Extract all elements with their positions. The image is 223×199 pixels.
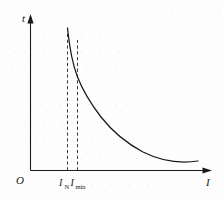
y-axis-arrowhead [27, 14, 33, 24]
inverse-time-characteristic-chart: t I O I N I min [0, 0, 223, 199]
inverse-time-curve [68, 28, 199, 162]
xtick-label-rated-current: I N [58, 177, 70, 190]
x-axis-label: I [205, 176, 211, 188]
xtick-minimum-symbol: I [70, 177, 75, 188]
x-axis-arrowhead [203, 167, 213, 173]
xtick-rated-subscript: N [65, 183, 70, 190]
figure-container: · · · · · · · · · · · · · · · · · · · · … [0, 0, 223, 199]
xtick-label-minimum-current: I min [70, 177, 87, 190]
y-axis-group [27, 14, 33, 171]
origin-label: O [16, 174, 24, 186]
xtick-minimum-subscript: min [76, 183, 87, 190]
y-axis-label: t [22, 12, 26, 24]
xtick-rated-symbol: I [58, 177, 63, 188]
x-axis-group [31, 167, 213, 173]
